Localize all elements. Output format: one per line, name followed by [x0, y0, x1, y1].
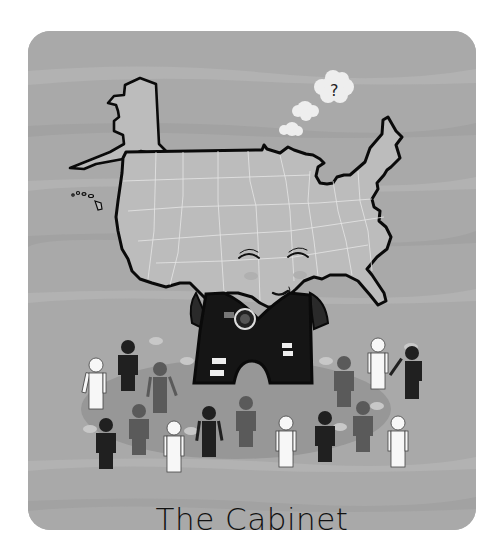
cabinet-member: [388, 416, 408, 467]
flag-pin: [224, 312, 234, 318]
cabinet-member: [164, 421, 184, 472]
cabinet-member: [368, 338, 388, 389]
cabinet-member: [276, 416, 296, 467]
illustration-title: The Cabinet: [28, 501, 476, 530]
illustration-card: ?: [28, 31, 476, 530]
thought-question-mark: ?: [330, 81, 339, 100]
cabinet-illustration: ?: [28, 31, 476, 530]
